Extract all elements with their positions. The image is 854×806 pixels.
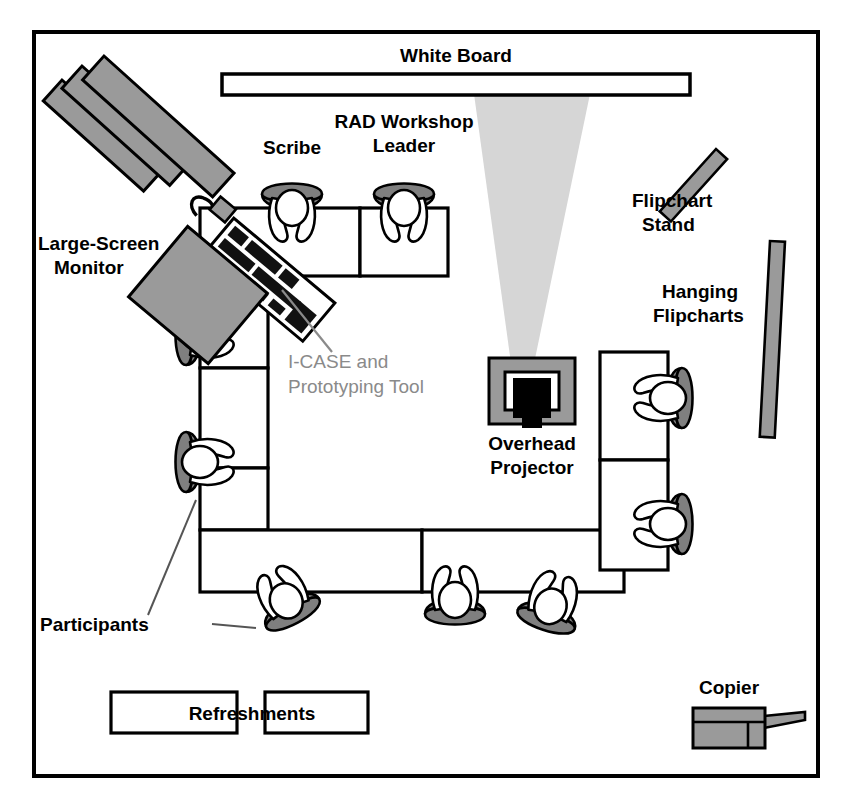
flipchart-stand-label-line1: Flipchart bbox=[632, 190, 713, 211]
white-board-label: White Board bbox=[400, 45, 512, 66]
icase-label-line2: Prototyping Tool bbox=[288, 376, 424, 397]
overhead-projector bbox=[489, 358, 575, 428]
white-board bbox=[222, 74, 690, 95]
overhead-projector-label-line2: Projector bbox=[490, 457, 574, 478]
rad-leader-label-line2: Leader bbox=[373, 135, 436, 156]
hanging-flipcharts-label-line1: Hanging bbox=[662, 281, 738, 302]
icase-label-line1: I-CASE and bbox=[288, 351, 388, 372]
hanging-flipcharts-label-line2: Flipcharts bbox=[653, 305, 744, 326]
flipchart-stand-label-line2: Stand bbox=[642, 214, 695, 235]
participants-label: Participants bbox=[40, 614, 149, 635]
large-screen-monitor-label-line1: Large-Screen bbox=[38, 233, 159, 254]
copier-label: Copier bbox=[699, 677, 760, 698]
refreshments-label: Refreshments bbox=[189, 703, 316, 724]
table-panel-bottom-left bbox=[200, 530, 422, 592]
overhead-projector-label-line1: Overhead bbox=[488, 433, 576, 454]
large-screen-monitor-label-line2: Monitor bbox=[54, 257, 124, 278]
rad-leader-label-line1: RAD Workshop bbox=[335, 111, 474, 132]
scribe-label: Scribe bbox=[263, 137, 321, 158]
room-layout-diagram: White Board Large-Screen Monitor Flipcha… bbox=[0, 0, 854, 806]
